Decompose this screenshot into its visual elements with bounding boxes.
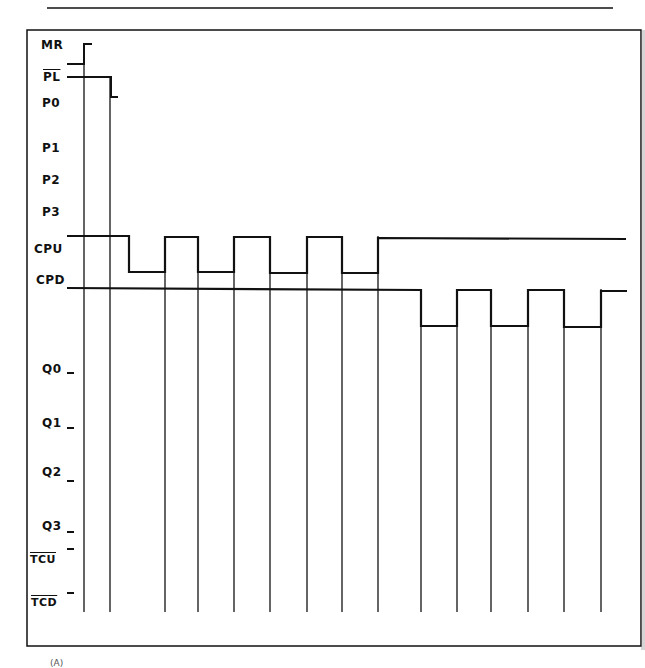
waveform-mr <box>67 44 92 64</box>
signal-label-p2: P2 <box>42 173 60 187</box>
signal-label-p0: P0 <box>42 96 60 110</box>
signal-label-cpu: CPU <box>34 242 63 256</box>
waveform-cpu <box>67 236 626 273</box>
signal-label-p1: P1 <box>42 141 60 155</box>
signal-label-mr: MR <box>41 38 63 52</box>
footer-note: (A) <box>50 658 63 668</box>
signal-label-p3: P3 <box>42 205 60 219</box>
output-level-ticks <box>67 373 74 593</box>
scan-edge <box>641 30 645 650</box>
signal-label-tcd: TCD <box>31 596 57 609</box>
signal-label-cpd: CPD <box>36 273 65 287</box>
diagram-frame <box>27 30 641 646</box>
edge-markers <box>84 44 601 612</box>
signal-label-pl: PL <box>43 70 60 84</box>
timing-diagram-canvas <box>0 0 645 668</box>
waveform-cpd <box>67 288 627 327</box>
waveform-pl <box>67 77 118 97</box>
signal-label-q0: Q0 <box>42 362 62 376</box>
signal-label-q1: Q1 <box>42 416 62 430</box>
signal-label-q2: Q2 <box>42 465 62 479</box>
signal-label-tcu: TCU <box>30 553 56 566</box>
signal-label-q3: Q3 <box>42 519 62 533</box>
